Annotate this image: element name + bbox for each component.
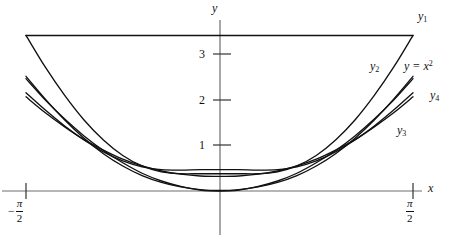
curve-label-parabola-sup: 2 [429, 59, 433, 68]
pi-numerator-left: π [16, 198, 24, 210]
minus-sign: − [8, 204, 15, 219]
curve-label-y2: y2 [370, 60, 379, 74]
two-denominator-left: 2 [16, 213, 24, 225]
pi-numerator-right: π [406, 198, 414, 210]
x-tick-label-right: π 2 [406, 198, 414, 224]
curve-label-y4: y4 [430, 89, 439, 103]
x-tick-label-left: − π 2 [8, 198, 23, 224]
curve-label-y1-sub: 1 [423, 15, 427, 24]
curve-label-parabola: y = x2 [404, 60, 433, 72]
plot-canvas [0, 0, 450, 247]
curve-label-y4-sub: 4 [435, 94, 439, 103]
curve-label-parabola-base: y = x [404, 59, 429, 73]
curve-label-y3: y3 [397, 124, 406, 138]
two-denominator-right: 2 [406, 213, 414, 225]
y-axis-label: y [212, 2, 217, 14]
y-tick-label-3: 3 [199, 48, 205, 60]
y-tick-label-1: 1 [199, 139, 205, 151]
curve-label-y3-sub: 3 [402, 129, 406, 138]
x-axis-label: x [428, 182, 433, 194]
math-figure: y x 1 2 3 − π 2 π 2 y1 y2 y = x2 y4 y3 [0, 0, 450, 247]
curve-label-y1: y1 [418, 10, 427, 24]
y-tick-label-2: 2 [199, 94, 205, 106]
curve-label-y2-sub: 2 [375, 65, 379, 74]
